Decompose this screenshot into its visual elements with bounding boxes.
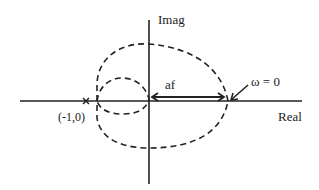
imag-axis-label: Imag — [158, 13, 185, 26]
diagram-canvas — [0, 0, 319, 190]
critical-point-label: (-1,0) — [58, 111, 85, 123]
omega-zero-pointer-arrow-icon — [231, 85, 248, 100]
omega-zero-label: ω = 0 — [251, 75, 280, 88]
nyquist-outer-curve — [97, 44, 228, 148]
real-axis-label: Real — [278, 110, 302, 123]
nyquist-inner-loop — [97, 78, 149, 114]
af-distance-arrow-icon — [152, 93, 224, 101]
af-distance-label: af — [165, 78, 175, 91]
nyquist-diagram: Imag Real (-1,0) af ω = 0 — [0, 0, 319, 190]
